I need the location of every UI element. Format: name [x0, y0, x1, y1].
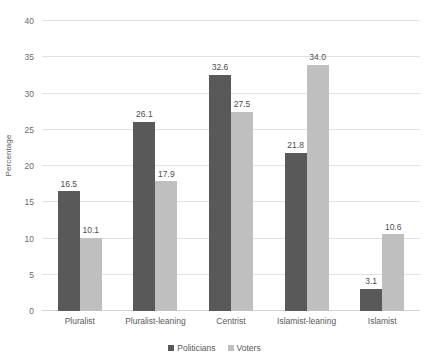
x-axis-category-labels: PluralistPluralist-leaningCentristIslami…	[42, 316, 420, 332]
legend-label: Voters	[237, 344, 261, 353]
bar-value-label: 10.1	[74, 226, 108, 235]
bar[interactable]	[209, 75, 231, 311]
plot-area: 16.510.126.117.932.627.521.834.03.110.6	[42, 21, 420, 311]
bar-group: 26.117.9	[118, 21, 194, 311]
bar-chart: Percentage 0510152025303540 16.510.126.1…	[0, 0, 429, 359]
x-axis-category-label: Centrist	[193, 316, 269, 326]
bar-group: 16.510.1	[42, 21, 118, 311]
bar[interactable]	[155, 181, 177, 311]
bar-group: 3.110.6	[344, 21, 420, 311]
legend-label: Politicians	[177, 344, 215, 353]
bar-value-label: 10.6	[376, 223, 410, 232]
bar-value-label: 34.0	[301, 53, 335, 62]
y-axis-tick-label: 5	[14, 271, 34, 280]
bar-group: 21.834.0	[269, 21, 345, 311]
bar[interactable]	[382, 234, 404, 311]
x-axis-category-label: Islamist-leaning	[269, 316, 345, 326]
bar[interactable]	[231, 112, 253, 311]
y-axis-title-label: Percentage	[5, 135, 14, 177]
y-axis-tick-labels: 0510152025303540	[14, 21, 38, 311]
y-axis-tick-label: 15	[14, 198, 34, 207]
y-axis-tick-label: 20	[14, 162, 34, 171]
legend-swatch-icon	[168, 345, 174, 351]
bar-group: 32.627.5	[193, 21, 269, 311]
bar[interactable]	[133, 122, 155, 311]
y-axis-tick-label: 40	[14, 17, 34, 26]
bar[interactable]	[285, 153, 307, 311]
bar[interactable]	[307, 65, 329, 312]
bar[interactable]	[360, 289, 382, 311]
bar-value-label: 17.9	[149, 170, 183, 179]
y-axis-tick-label: 35	[14, 53, 34, 62]
y-axis-tick-label: 25	[14, 126, 34, 135]
legend-item[interactable]: Politicians	[168, 344, 215, 353]
legend-item[interactable]: Voters	[228, 344, 261, 353]
y-axis-tick-label: 0	[14, 307, 34, 316]
bar-value-label: 26.1	[127, 110, 161, 119]
bar-value-label: 27.5	[225, 100, 259, 109]
legend-swatch-icon	[228, 345, 234, 351]
bar[interactable]	[58, 191, 80, 311]
y-axis-tick-label: 10	[14, 234, 34, 243]
x-axis-category-label: Islamist	[344, 316, 420, 326]
x-axis-category-label: Pluralist	[42, 316, 118, 326]
bar-value-label: 32.6	[203, 63, 237, 72]
bar[interactable]	[80, 238, 102, 311]
y-axis-tick-label: 30	[14, 89, 34, 98]
bar-groups: 16.510.126.117.932.627.521.834.03.110.6	[42, 21, 420, 311]
chart-legend: PoliticiansVoters	[0, 341, 429, 355]
x-axis-category-label: Pluralist-leaning	[118, 316, 194, 326]
bar-value-label: 16.5	[52, 180, 86, 189]
